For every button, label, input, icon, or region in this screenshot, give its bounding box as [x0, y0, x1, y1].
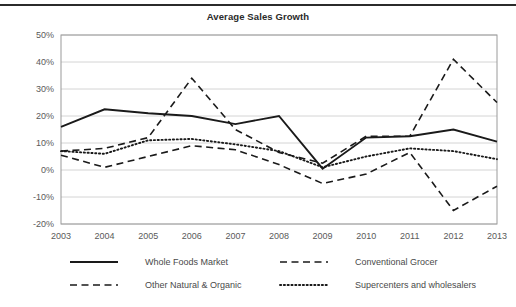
y-tick-label: 0%	[41, 165, 54, 175]
series-line	[61, 146, 497, 211]
x-tick-label: 2012	[443, 231, 463, 241]
y-tick-label: 40%	[36, 57, 54, 67]
y-tick-label: -20%	[33, 219, 54, 229]
legend-label: Other Natural & Organic	[145, 280, 242, 290]
line-chart: 50%40%30%20%10%0%-10%-20% 20032004200520…	[0, 0, 516, 307]
chart-title: Average Sales Growth	[0, 11, 516, 22]
x-tick-label: 2005	[138, 231, 158, 241]
plot-frame	[61, 35, 497, 224]
chart-legend: Whole Foods MarketConventional GrocerOth…	[70, 257, 477, 290]
y-tick-label: 30%	[36, 84, 54, 94]
series-line	[61, 109, 497, 168]
figure-container: Average Sales Growth 50%40%30%20%10%0%-1…	[0, 0, 516, 307]
x-tick-label: 2004	[95, 231, 115, 241]
legend-label: Whole Foods Market	[145, 257, 229, 267]
x-tick-label: 2009	[313, 231, 333, 241]
legend-label: Supercenters and wholesalers	[355, 280, 477, 290]
plot-border	[61, 35, 497, 224]
x-tick-label: 2008	[269, 231, 289, 241]
top-divider-rule	[0, 4, 516, 6]
x-axis-tick-labels: 2003200420052006200720082009201020112012…	[51, 231, 507, 241]
x-tick-label: 2006	[182, 231, 202, 241]
x-tick-label: 2013	[487, 231, 507, 241]
y-tick-label: -10%	[33, 192, 54, 202]
x-tick-label: 2007	[225, 231, 245, 241]
x-tick-label: 2011	[400, 231, 419, 241]
data-series-lines	[61, 59, 497, 210]
y-tick-label: 50%	[36, 30, 54, 40]
grid-lines	[61, 35, 497, 224]
y-axis-tick-labels: 50%40%30%20%10%0%-10%-20%	[33, 30, 54, 229]
y-tick-label: 20%	[36, 111, 54, 121]
legend-label: Conventional Grocer	[355, 257, 438, 267]
y-tick-label: 10%	[36, 138, 54, 148]
x-tick-label: 2003	[51, 231, 71, 241]
x-tick-label: 2010	[356, 231, 376, 241]
